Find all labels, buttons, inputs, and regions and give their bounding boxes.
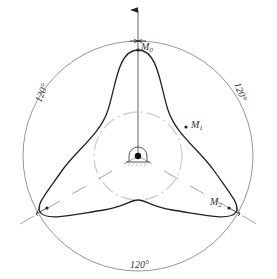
angle-label-left: 120° [33, 82, 50, 104]
label-m2: M2 [209, 196, 222, 209]
m2-dimension [229, 207, 240, 216]
label-m1: M1 [190, 119, 203, 132]
point-m0 [136, 48, 139, 51]
cam-diagram: M0 M1 M2 120° 120° 120° [0, 0, 277, 279]
angle-label-bottom: 120° [130, 259, 149, 270]
angle-label-right: 120° [232, 81, 249, 103]
point-m1 [184, 125, 187, 128]
m2-left-dimension [36, 207, 47, 216]
